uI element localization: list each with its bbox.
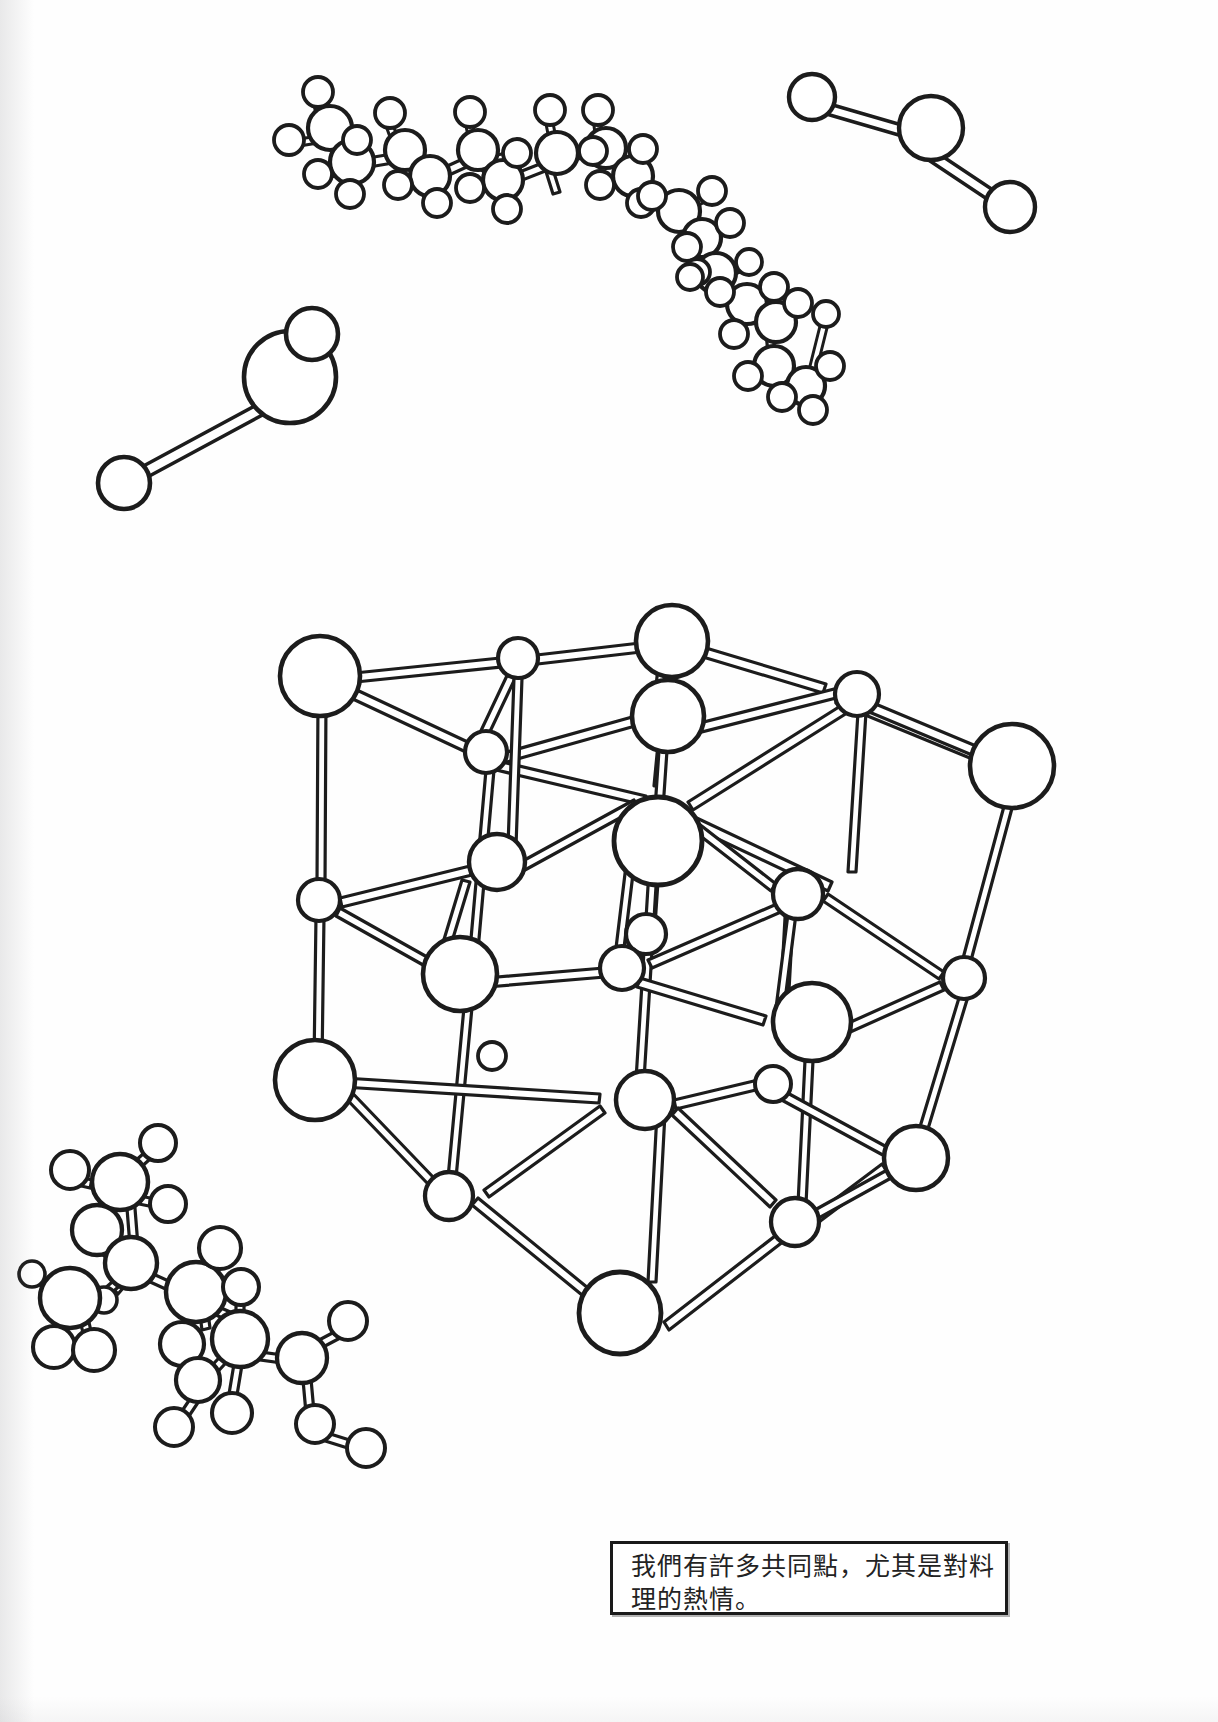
illustration-page: 我們有許多共同點，尤其是對料理的熱情。 xyxy=(0,0,1218,1722)
line-art-canvas xyxy=(0,0,1218,1722)
polymer-chain-molecule xyxy=(274,77,844,424)
water-left-atoms xyxy=(98,308,338,509)
water-top-right-atoms xyxy=(789,74,1035,232)
caption-box: 我們有許多共同點，尤其是對料理的熱情。 xyxy=(610,1541,1008,1615)
crystal-lattice-cube xyxy=(275,605,1054,1354)
branched-organic-molecule xyxy=(19,1125,385,1467)
water-molecule-top-right xyxy=(789,74,1035,232)
caption-text: 我們有許多共同點，尤其是對料理的熱情。 xyxy=(631,1550,999,1616)
water-molecule-left xyxy=(98,308,338,509)
branched-molecule-atoms xyxy=(19,1125,385,1467)
polymer-substituent-atoms xyxy=(274,77,844,424)
